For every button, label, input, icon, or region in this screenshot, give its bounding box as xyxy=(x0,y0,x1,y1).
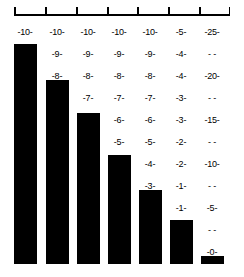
scale-label: - - xyxy=(196,226,228,235)
scale-label: -10- xyxy=(72,28,104,37)
chart-column-4: -10- -9- -8- -7- -6- -5- xyxy=(103,22,135,264)
scale-label: -10- xyxy=(134,28,166,37)
bar-2 xyxy=(46,80,69,264)
scale-label: -4- xyxy=(134,160,166,169)
ruler-tick xyxy=(14,7,16,16)
bar-6 xyxy=(170,220,193,264)
chart-column-6: -5- -4- -4- -3- -3- -2- -2- -1- -1- xyxy=(165,22,197,264)
bar-chart: -10- -10- -9- -8- -10- -9- -8- -7- -10- … xyxy=(0,0,244,277)
ruler-tick xyxy=(168,7,170,16)
scale-label: -5- xyxy=(165,28,197,37)
scale-label: -9- xyxy=(41,50,73,59)
scale-label: -7- xyxy=(134,94,166,103)
scale-label: -8- xyxy=(103,72,135,81)
scale-label: -3- xyxy=(165,94,197,103)
scale-label: -7- xyxy=(103,94,135,103)
bar-1 xyxy=(14,44,37,264)
scale-label: -8- xyxy=(72,72,104,81)
scale-label: - - xyxy=(196,94,228,103)
scale-label: -6- xyxy=(103,116,135,125)
scale-label: -10- xyxy=(41,28,73,37)
column-scale-7: -25- - - -20- - - -15- - - -10- - - -5- … xyxy=(196,22,228,264)
scale-label: -5- xyxy=(196,204,228,213)
scale-label: -2- xyxy=(165,138,197,147)
bar-3 xyxy=(77,113,100,264)
scale-label: -10- xyxy=(9,28,41,37)
chart-column-7: -25- - - -20- - - -15- - - -10- - - -5- … xyxy=(196,22,228,264)
scale-label: -8- xyxy=(134,72,166,81)
scale-label: - - xyxy=(196,182,228,191)
bar-5 xyxy=(139,190,162,264)
bar-7 xyxy=(201,256,224,264)
chart-column-2: -10- -9- -8- xyxy=(41,22,73,264)
ruler-tick xyxy=(199,7,201,16)
ruler-tick xyxy=(137,7,139,16)
scale-label: -9- xyxy=(72,50,104,59)
scale-label: -7- xyxy=(72,94,104,103)
scale-label: -20- xyxy=(196,72,228,81)
ruler-tick xyxy=(45,7,47,16)
scale-label: -25- xyxy=(196,28,228,37)
scale-label: -4- xyxy=(165,50,197,59)
scale-label: - - xyxy=(196,50,228,59)
scale-label: -9- xyxy=(103,50,135,59)
chart-column-1: -10- xyxy=(9,22,41,264)
scale-label: -1- xyxy=(165,204,197,213)
scale-label: -5- xyxy=(134,138,166,147)
scale-label: -15- xyxy=(196,116,228,125)
scale-label: -9- xyxy=(134,50,166,59)
scale-label: -2- xyxy=(165,160,197,169)
scale-label: -5- xyxy=(103,138,135,147)
scale-label: -6- xyxy=(134,116,166,125)
scale-label: -4- xyxy=(165,72,197,81)
chart-column-5: -10- -9- -8- -7- -6- -5- -4- -3- xyxy=(134,22,166,264)
bar-4 xyxy=(108,155,131,264)
ruler-tick xyxy=(229,7,231,16)
ruler-tick xyxy=(76,7,78,16)
scale-label: -10- xyxy=(196,160,228,169)
scale-label: - - xyxy=(196,138,228,147)
scale-label: -1- xyxy=(165,182,197,191)
scale-label: -10- xyxy=(103,28,135,37)
top-ruler xyxy=(0,0,244,22)
scale-label: -3- xyxy=(165,116,197,125)
ruler-tick xyxy=(107,7,109,16)
chart-column-3: -10- -9- -8- -7- xyxy=(72,22,104,264)
